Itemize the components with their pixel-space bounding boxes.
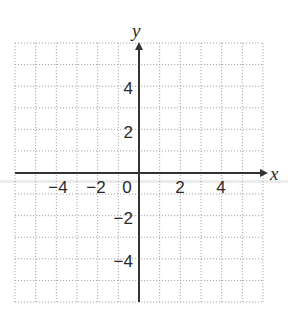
x-axis-label: x bbox=[269, 163, 279, 184]
y-tick-label: 2 bbox=[124, 123, 133, 142]
y-axis-label: y bbox=[130, 20, 141, 41]
y-tick-label: −2 bbox=[114, 209, 133, 228]
x-tick-label: −4 bbox=[48, 178, 67, 197]
y-tick-label: −4 bbox=[114, 252, 133, 271]
coordinate-plane: x y −4 −2 0 2 4 4 2 −2 −4 bbox=[0, 0, 288, 309]
x-tick-label: 0 bbox=[122, 178, 131, 197]
x-tick-label: 4 bbox=[216, 178, 225, 197]
x-tick-label: −2 bbox=[86, 178, 105, 197]
background-band bbox=[0, 180, 288, 183]
x-tick-label: 2 bbox=[175, 178, 184, 197]
y-tick-label: 4 bbox=[124, 79, 133, 98]
